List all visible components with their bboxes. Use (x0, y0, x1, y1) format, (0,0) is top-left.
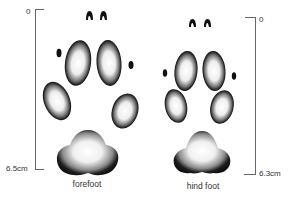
toe-pad (201, 50, 227, 92)
toe-pad (162, 87, 191, 125)
claw-mark (129, 61, 134, 69)
claw-mark (86, 11, 93, 20)
toe-pad (95, 39, 123, 87)
hind-foot-scale-bar (244, 17, 256, 175)
forefoot-scale-top-label: 0 (26, 8, 30, 16)
toe-pad (207, 88, 238, 127)
toe-pad (172, 50, 199, 92)
toe-pad (62, 38, 94, 87)
hind-foot-caption: hind foot (187, 182, 220, 191)
forefoot-print (37, 11, 142, 175)
forefoot-scale-bar (36, 9, 45, 170)
claw-mark (189, 19, 196, 27)
main-pad (57, 130, 118, 175)
hind-foot-print (162, 19, 238, 173)
hind-foot-scale-bottom-label: 6.3cm (259, 170, 281, 178)
hind-foot-scale-top-label: 0 (259, 16, 263, 24)
main-pad (174, 131, 231, 173)
footprint-diagram: 0 6.5cm 0 6.3cm forefoot hind foot (0, 0, 293, 197)
toe-pad (107, 90, 143, 132)
claw-mark (57, 49, 62, 57)
claw-mark (232, 72, 236, 80)
claw-mark (204, 19, 211, 27)
forefoot-caption: forefoot (73, 180, 102, 189)
claw-mark (100, 11, 107, 20)
toe-pad (37, 78, 76, 125)
claw-mark (163, 69, 167, 77)
footprint-drawing (0, 0, 293, 197)
forefoot-scale-bottom-label: 6.5cm (6, 165, 28, 173)
